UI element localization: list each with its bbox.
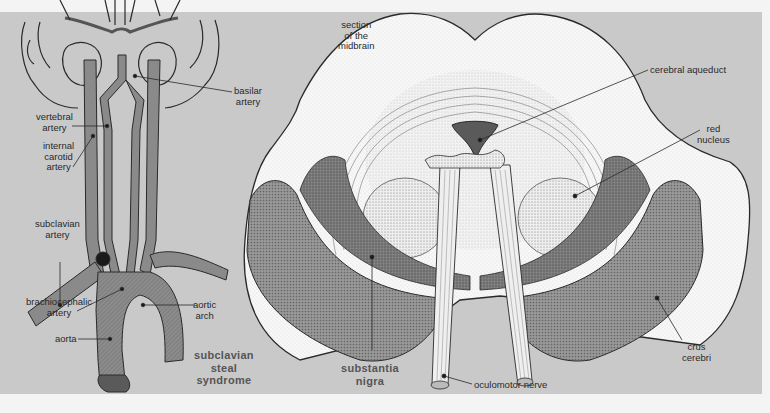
caption-line: subclavian [194,349,254,362]
label-line: artery [36,123,73,134]
title-line: section [338,20,374,31]
label-line: artery [43,162,74,173]
label-line: arch [193,311,216,322]
label-line: crus [682,342,711,353]
label-aortic-arch: aortic arch [193,300,216,321]
title-section-of-midbrain: section of the midbrain [338,20,374,52]
label-line: basilar [234,86,262,97]
label-line: subclavian [35,219,80,230]
caption-line: syndrome [194,374,254,387]
title-line: midbrain [338,41,374,52]
label-crus-cerebri: crus cerebri [682,342,711,363]
vascular-diagram [22,0,219,108]
label-basilar-artery: basilar artery [234,86,262,107]
label-substantia-nigra: substantia nigra [341,362,399,387]
label-line: nigra [341,375,399,388]
label-aorta: aorta [55,334,77,345]
label-internal-carotid-artery: internal carotid artery [43,141,74,173]
label-line: substantia [341,362,399,375]
label-line: brachiocephalic [26,297,92,308]
label-line: artery [26,308,92,319]
label-red-nucleus: red nucleus [697,124,730,145]
label-line: internal [43,141,74,152]
label-line: nucleus [697,135,730,146]
label-subclavian-artery: subclavian artery [35,219,80,240]
label-line: cerebri [682,353,711,364]
label-cerebral-aqueduct: cerebral aqueduct [650,65,726,76]
caption-subclavian-steal-syndrome: subclavian steal syndrome [194,349,254,387]
label-line: aortic [193,300,216,311]
anatomical-illustration [0,0,770,413]
label-line: artery [35,230,80,241]
caption-line: steal [194,362,254,375]
label-brachiocephalic-artery: brachiocephalic artery [26,297,92,318]
label-oculomotor-nerve: oculomotor nerve [474,380,547,391]
label-line: red [697,124,730,135]
label-line: artery [234,97,262,108]
label-vertebral-artery: vertebral artery [36,112,73,133]
label-line: vertebral [36,112,73,123]
